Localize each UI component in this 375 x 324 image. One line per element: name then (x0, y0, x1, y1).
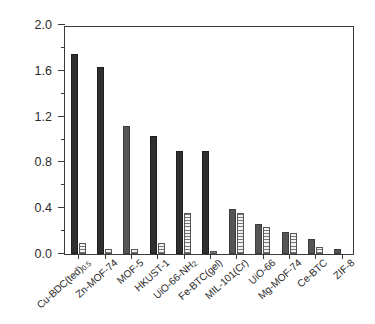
bar-group (170, 27, 196, 254)
bar-solid (123, 126, 130, 254)
y-tick-label: 1.6 (35, 64, 52, 78)
bar-group (302, 27, 328, 254)
bar-group (197, 27, 223, 254)
y-tick-major: 2.0 (58, 24, 65, 25)
bar-group (329, 27, 355, 254)
bar-solid (150, 136, 157, 254)
bar-group (65, 27, 91, 254)
bar-hatched (210, 251, 217, 254)
bar-group (223, 27, 249, 254)
bar-solid (71, 54, 78, 254)
y-tick-major: 1.2 (58, 116, 65, 117)
y-tick-major: 0.0 (58, 253, 65, 254)
bar-solid (97, 67, 104, 254)
bar-hatched (79, 243, 86, 254)
y-tick-major: 1.6 (58, 70, 65, 71)
y-tick-major: 0.4 (58, 207, 65, 208)
y-tick-label: 0.0 (35, 247, 52, 261)
bar-solid (282, 232, 289, 254)
bar-hatched (316, 247, 323, 254)
bar-solid (176, 151, 183, 254)
bar-group (91, 27, 117, 254)
x-axis-labels: Cu-BDC(ted)0.5Zn-MOF-74MOF-5HKUST-1UiO-6… (64, 257, 364, 324)
bar-group (250, 27, 276, 254)
bar-solid (229, 209, 236, 254)
bar-hatched (105, 249, 112, 254)
y-tick-major: 0.8 (58, 161, 65, 162)
bar-group (144, 27, 170, 254)
bar-hatched (131, 249, 138, 254)
bar-solid (255, 224, 262, 254)
y-tick-label: 0.4 (35, 201, 52, 215)
bar-hatched (184, 213, 191, 254)
bar-hatched (237, 213, 244, 254)
y-tick-label: 0.8 (35, 155, 52, 169)
bar-hatched (158, 243, 165, 254)
bar-series-container (65, 27, 353, 254)
bar-solid (202, 151, 209, 254)
bar-solid (308, 239, 315, 254)
x-axis-category-label: ZIF-8 (331, 257, 356, 281)
bar-group (276, 27, 302, 254)
plot-area: 0.00.40.81.21.62.0 (64, 26, 354, 255)
bar-hatched (263, 227, 270, 254)
bar-solid (334, 249, 341, 254)
bar-group (118, 27, 144, 254)
y-tick-label: 1.2 (35, 110, 52, 124)
y-tick-label: 2.0 (35, 18, 52, 32)
bar-hatched (290, 233, 297, 254)
figure: uptake, mmol/g 0.00.40.81.21.62.0 Cu-BDC… (0, 0, 375, 324)
